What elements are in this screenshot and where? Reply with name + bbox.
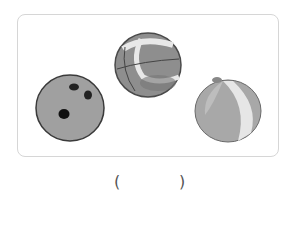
answer-blank[interactable] [125, 174, 175, 190]
close-paren: ) [179, 174, 185, 190]
basketball-icon [113, 31, 183, 99]
bowling-ball-icon [34, 74, 106, 142]
beach-ball-icon [193, 75, 263, 143]
open-paren: ( [114, 174, 120, 190]
